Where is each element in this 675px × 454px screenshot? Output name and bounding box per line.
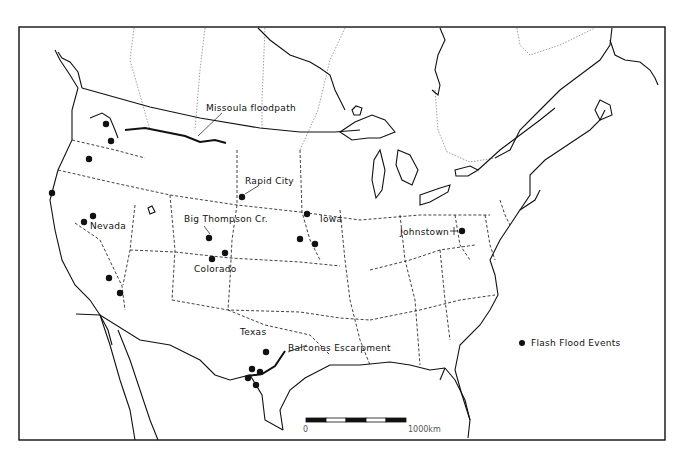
flood-event-marker xyxy=(245,375,251,381)
flood-event-marker xyxy=(459,228,465,234)
flood-event-marker xyxy=(253,382,259,388)
flood-event-marker xyxy=(257,369,263,375)
label-texas: Texas xyxy=(240,328,266,337)
lake-michigan xyxy=(372,150,385,198)
flood-event-marker xyxy=(209,256,215,262)
legend-label: Flash Flood Events xyxy=(531,338,621,348)
flood-event-marker xyxy=(222,250,228,256)
label-iowa: Iowa xyxy=(320,215,342,224)
map-frame xyxy=(19,27,665,440)
flood-event-marker xyxy=(90,213,96,219)
flood-event-marker xyxy=(81,219,87,225)
label-big-thompson: Big Thompson Cr. xyxy=(184,215,268,224)
big-thompson-leader xyxy=(204,226,210,234)
missoula-floodpath-line xyxy=(125,128,226,143)
flood-event-marker-icon xyxy=(519,340,525,346)
legend: Flash Flood Events xyxy=(519,338,621,348)
scale-end-label: 1000km xyxy=(408,425,441,434)
flood-event-marker xyxy=(304,211,310,217)
missoula-leader xyxy=(198,113,222,136)
flood-event-marker xyxy=(106,275,112,281)
flood-event-marker xyxy=(49,190,55,196)
johnstown-leader xyxy=(450,227,458,235)
label-colorado: Colorado xyxy=(194,265,237,274)
label-balcones-escarpment: Balcones Escarpment xyxy=(288,344,391,353)
flood-event-marker xyxy=(312,241,318,247)
flood-event-marker xyxy=(263,349,269,355)
lake-erie xyxy=(420,185,450,205)
flood-event-marker xyxy=(297,236,303,242)
flood-event-marker xyxy=(108,138,114,144)
rapid-city-leader xyxy=(245,186,258,194)
flood-event-marker xyxy=(206,235,212,241)
coastlines xyxy=(50,28,658,440)
flood-event-marker xyxy=(103,121,109,127)
label-rapid-city: Rapid City xyxy=(245,177,294,186)
flood-event-marker xyxy=(117,290,123,296)
scale-bar xyxy=(306,418,406,422)
lake-superior xyxy=(340,115,395,140)
flood-event-marker xyxy=(239,194,245,200)
scale-start-label: 0 xyxy=(303,425,308,434)
flood-event-marker xyxy=(249,366,255,372)
label-missoula-floodpath: Missoula floodpath xyxy=(206,104,296,113)
lake-ontario xyxy=(455,166,478,176)
lake-huron xyxy=(396,150,418,185)
label-nevada: Nevada xyxy=(90,222,126,231)
label-johnstown: Johnstown xyxy=(400,228,449,237)
flood-event-marker xyxy=(86,156,92,162)
